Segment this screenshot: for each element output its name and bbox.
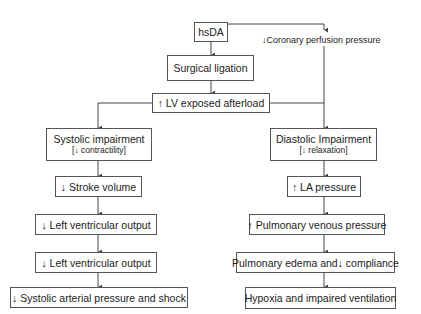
node-title: Diastolic Impairment: [276, 133, 371, 145]
node-pulmonary-edema: Pulmonary edema and↓ compliance: [236, 252, 395, 273]
node-label: ↓ Systolic arterial pressure and shock: [12, 292, 186, 304]
node-systolic-impairment: Systolic impairment [↓ contractility]: [46, 128, 152, 161]
node-subtitle: [↓ relaxation]: [299, 145, 347, 156]
node-label: ↓ Stroke volume: [61, 181, 136, 193]
node-label: hsDA: [198, 26, 224, 38]
coronary-perfusion-note: ↓Coronary perfusion pressure: [262, 35, 381, 45]
node-hypoxia: Hypoxia and impaired ventilation: [245, 287, 396, 309]
node-label: ↑ LA pressure: [292, 181, 356, 193]
node-hsda: hsDA: [194, 22, 228, 42]
node-label: ↓ Left ventricular output: [41, 257, 150, 269]
node-pulmonary-venous-pressure: ↑ Pulmonary venous pressure: [249, 214, 385, 235]
node-stroke-volume: ↓ Stroke volume: [55, 176, 142, 197]
node-lv-afterload: ↑ LV exposed afterload: [152, 93, 270, 113]
node-label: ↑ Pulmonary venous pressure: [248, 219, 387, 231]
node-surgical-ligation: Surgical ligation: [167, 55, 254, 81]
node-diastolic-impairment: Diastolic Impairment [↓ relaxation]: [270, 128, 377, 161]
node-title: Systolic impairment: [53, 133, 144, 145]
node-label: ↑ LV exposed afterload: [158, 97, 265, 109]
node-label: Pulmonary edema and↓ compliance: [232, 257, 399, 269]
node-la-pressure: ↑ LA pressure: [287, 176, 361, 197]
node-lv-output-1: ↓ Left ventricular output: [35, 214, 157, 235]
node-label: ↓ Left ventricular output: [41, 219, 150, 231]
node-label: Hypoxia and impaired ventilation: [245, 292, 397, 304]
node-subtitle: [↓ contractility]: [72, 145, 126, 156]
node-label: Surgical ligation: [173, 62, 247, 74]
node-systolic-pressure-shock: ↓ Systolic arterial pressure and shock: [10, 287, 188, 308]
node-lv-output-2: ↓ Left ventricular output: [35, 252, 157, 273]
